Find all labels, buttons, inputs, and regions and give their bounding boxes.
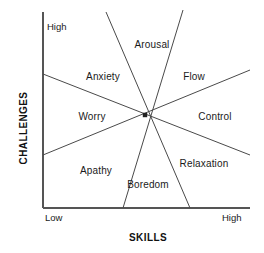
x-axis-high-tick-label: High	[222, 212, 242, 223]
center-intersection-node	[143, 113, 147, 117]
zone-label-apathy: Apathy	[80, 165, 112, 176]
zone-label-worry: Worry	[78, 111, 105, 122]
x-axis-title: SKILLS	[129, 232, 167, 243]
zone-label-control: Control	[198, 111, 231, 122]
zone-label-flow: Flow	[183, 71, 205, 82]
x-axis-low-tick-label: Low	[45, 212, 62, 223]
zone-label-arousal: Arousal	[135, 39, 170, 50]
zone-label-boredom: Boredom	[127, 179, 169, 190]
zone-label-relaxation: Relaxation	[180, 158, 229, 169]
y-axis-title: CHALLENGES	[18, 92, 29, 165]
flow-model-diagram: Arousal Anxiety Flow Worry Control Apath…	[0, 0, 264, 253]
y-axis-high-tick-label: High	[47, 21, 67, 32]
zone-label-anxiety: Anxiety	[86, 71, 120, 82]
